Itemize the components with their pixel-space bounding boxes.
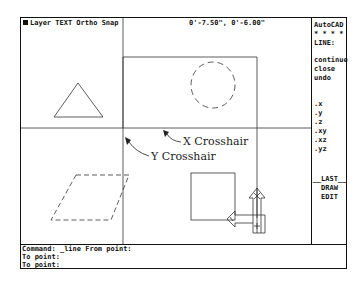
menu-filter-xy[interactable]: .xy: [314, 127, 327, 136]
y-crosshair-arrow: [129, 142, 149, 156]
menu-option-close[interactable]: close: [314, 65, 335, 74]
layer-label: Layer TEXT Ortho Snap: [30, 19, 119, 27]
status-bar: Layer TEXT Ortho Snap 0'-7.50", 0'-6.00": [21, 18, 312, 28]
dashed-parallelogram: [51, 175, 129, 220]
command-line-1: Command: _line From point:: [22, 245, 132, 253]
menu-filter-x[interactable]: .x: [314, 100, 322, 109]
command-line-2: To point:: [22, 253, 60, 261]
menu-filter-y[interactable]: .y: [314, 109, 322, 118]
menu-option-continue[interactable]: continue: [314, 56, 348, 65]
y-crosshair-label: Y Crosshair: [151, 150, 216, 163]
menu-filter-xz[interactable]: .xz: [314, 136, 327, 145]
layer-status[interactable]: Layer TEXT Ortho Snap: [23, 18, 119, 28]
command-line-3[interactable]: To point:: [22, 261, 60, 269]
screen-menu: AutoCAD * * * * LINE: continue close und…: [311, 18, 347, 244]
menu-option-undo[interactable]: undo: [314, 74, 331, 83]
coordinate-display: 0'-7.50", 0'-6.00": [189, 18, 265, 28]
x-crosshair-arrow: [167, 134, 181, 142]
menu-edit[interactable]: EDIT: [312, 193, 347, 202]
ucs-icon: [227, 188, 265, 233]
menu-filter-yz[interactable]: .yz: [314, 145, 327, 154]
menu-title-autocad[interactable]: AutoCAD: [314, 21, 344, 30]
drawing-area[interactable]: [21, 18, 311, 244]
menu-draw[interactable]: DRAW: [312, 184, 347, 193]
autocad-screen: X Crosshair Y Crosshair Layer TEXT Ortho…: [20, 17, 347, 269]
menu-filter-z[interactable]: .z: [314, 118, 322, 127]
menu-last[interactable]: __LAST__: [312, 175, 347, 184]
dashed-circle: [191, 62, 235, 108]
command-area[interactable]: Command: _line From point: To point: To …: [21, 244, 346, 269]
small-square: [191, 173, 235, 220]
triangle: [54, 83, 103, 117]
layer-color-swatch: [23, 20, 28, 25]
x-crosshair-label: X Crosshair: [183, 135, 248, 148]
menu-command-line[interactable]: LINE:: [314, 39, 335, 48]
menu-separator[interactable]: * * * *: [314, 30, 344, 39]
